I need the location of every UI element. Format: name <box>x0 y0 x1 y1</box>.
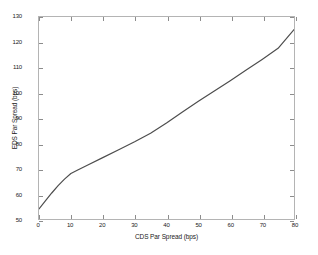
y-tick-mark <box>39 94 43 95</box>
y-tick-label: 70 <box>16 166 22 172</box>
chart-figure: 5060708090100110120130 01020304050607080… <box>0 0 318 255</box>
y-tick-mark-right <box>290 196 294 197</box>
x-tick-label: 80 <box>292 222 298 228</box>
y-tick-mark <box>39 68 43 69</box>
x-tick-mark <box>71 215 72 219</box>
data-curve <box>39 17 294 219</box>
x-tick-mark <box>135 215 136 219</box>
y-tick-mark-right <box>290 68 294 69</box>
x-tick-mark-top <box>232 17 233 21</box>
x-tick-label: 20 <box>99 222 105 228</box>
y-tick-mark-right <box>290 94 294 95</box>
plot-area <box>38 16 295 220</box>
y-tick-mark-right <box>290 43 294 44</box>
y-tick-label: 60 <box>16 192 22 198</box>
x-tick-label: 40 <box>163 222 169 228</box>
x-tick-mark-top <box>168 17 169 21</box>
y-tick-label: 110 <box>13 64 22 70</box>
y-tick-mark <box>39 196 43 197</box>
x-tick-mark-top <box>71 17 72 21</box>
x-tick-label: 10 <box>67 222 73 228</box>
y-axis-title: EDS Par Spread (bps) <box>11 87 18 150</box>
x-tick-mark <box>168 215 169 219</box>
x-tick-label: 0 <box>36 222 39 228</box>
x-tick-mark <box>200 215 201 219</box>
x-tick-mark-top <box>135 17 136 21</box>
x-tick-mark <box>103 215 104 219</box>
x-tick-mark-top <box>200 17 201 21</box>
x-tick-label: 70 <box>260 222 266 228</box>
x-tick-mark <box>39 215 40 219</box>
y-tick-mark <box>39 170 43 171</box>
x-tick-mark-top <box>103 17 104 21</box>
y-tick-mark-right <box>290 17 294 18</box>
y-tick-label: 120 <box>13 39 22 45</box>
x-tick-mark <box>264 215 265 219</box>
x-tick-label: 50 <box>195 222 201 228</box>
x-axis-title: CDS Par Spread (bps) <box>38 233 295 240</box>
y-tick-mark <box>39 145 43 146</box>
y-tick-mark <box>39 43 43 44</box>
y-tick-mark <box>39 119 43 120</box>
y-tick-mark-right <box>290 119 294 120</box>
y-tick-mark <box>39 221 43 222</box>
x-tick-mark <box>232 215 233 219</box>
y-tick-mark-right <box>290 170 294 171</box>
x-tick-mark-top <box>39 17 40 21</box>
y-tick-mark-right <box>290 145 294 146</box>
x-tick-mark-top <box>264 17 265 21</box>
y-tick-label: 50 <box>16 217 22 223</box>
y-tick-label: 130 <box>13 13 22 19</box>
x-tick-mark <box>296 215 297 219</box>
x-tick-label: 30 <box>131 222 137 228</box>
x-tick-mark-top <box>296 17 297 21</box>
x-tick-label: 60 <box>228 222 234 228</box>
